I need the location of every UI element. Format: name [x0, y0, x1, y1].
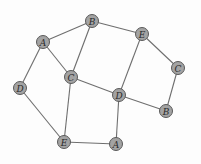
node-label: D — [15, 84, 23, 94]
node-d: D — [14, 82, 27, 95]
node-label: B — [88, 17, 96, 27]
node-label: E — [138, 30, 146, 40]
edge-e-a — [64, 142, 116, 144]
edge-d-b — [119, 95, 166, 111]
node-label: E — [60, 138, 68, 148]
node-label: D — [114, 91, 122, 101]
node-label: B — [162, 107, 170, 117]
node-c: C — [65, 71, 78, 84]
node-c: C — [172, 62, 185, 75]
edge-e-d — [119, 34, 142, 95]
node-label: C — [175, 64, 182, 74]
node-d: D — [113, 89, 126, 102]
edge-a-b — [43, 21, 92, 42]
edge-c-d — [71, 77, 119, 95]
edge-e-c — [142, 34, 178, 68]
node-b: B — [86, 15, 99, 28]
graph-diagram: ABECCDDBEA — [0, 0, 201, 164]
node-a: A — [37, 36, 50, 49]
edge-b-e — [92, 21, 142, 34]
edge-a-d — [20, 42, 43, 88]
edge-d-e — [20, 88, 64, 142]
node-label: A — [112, 140, 120, 150]
node-label: A — [39, 38, 47, 48]
node-b: B — [160, 105, 173, 118]
nodes-layer: ABECCDDBEA — [14, 15, 185, 151]
node-e: E — [136, 28, 149, 41]
node-a: A — [110, 138, 123, 151]
edge-b-c — [71, 21, 92, 77]
edge-c-e — [64, 77, 71, 142]
graph-svg: ABECCDDBEA — [0, 0, 201, 164]
node-e: E — [58, 136, 71, 149]
node-label: C — [68, 73, 75, 83]
edge-d-a — [116, 95, 119, 144]
